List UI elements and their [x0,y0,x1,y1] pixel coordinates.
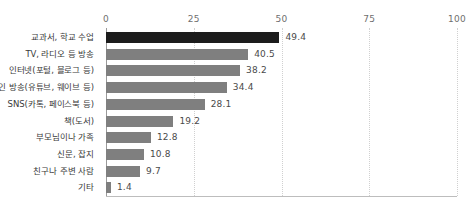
bar-value-label: 40.5 [254,46,275,63]
bar[interactable] [106,49,248,60]
bar[interactable] [106,166,140,177]
bar-row: 교과서, 학교 수업49.4 [0,29,473,46]
bar[interactable] [106,65,240,76]
bar-row: 친구나 주변 사람9.7 [0,163,473,180]
category-label: 인터넷(포털, 블로그 등) [9,62,94,79]
category-label: 온라인 방송(유튜브, 웨이브 등) [0,79,94,96]
bar[interactable] [106,99,205,110]
x-tick-label: 100 [448,14,466,25]
bar-value-label: 12.8 [157,129,178,146]
bar-value-label: 38.2 [246,62,267,79]
horizontal-bar-chart: 0255075100 교과서, 학교 수업49.4TV, 라디오 등 방송40.… [0,0,473,205]
bar-value-label: 28.1 [211,96,232,113]
bar-row: 부모님이나 가족12.8 [0,129,473,146]
bar[interactable] [106,116,173,127]
bar[interactable] [106,182,111,193]
category-label: 교과서, 학교 수업 [31,29,94,46]
bar-value-label: 34.4 [233,79,254,96]
category-label: 신문, 잡지 [57,146,94,163]
category-label: 부모님이나 가족 [36,129,94,146]
bar-row: 온라인 방송(유튜브, 웨이브 등)34.4 [0,79,473,96]
bar-value-label: 1.4 [117,179,132,196]
x-tick-label: 50 [276,14,288,25]
bar-row: SNS(카톡, 페이스북 등)28.1 [0,96,473,113]
bar[interactable] [106,32,279,43]
category-label: 친구나 주변 사람 [33,163,94,180]
bar[interactable] [106,149,144,160]
bar-value-label: 9.7 [146,163,161,180]
bar-row: TV, 라디오 등 방송40.5 [0,46,473,63]
category-label: 기타 [78,179,94,196]
category-label: SNS(카톡, 페이스북 등) [8,96,94,113]
x-tick-label: 25 [188,14,200,25]
bar-row: 인터넷(포털, 블로그 등)38.2 [0,62,473,79]
bar-row: 기타1.4 [0,179,473,196]
bar-value-label: 49.4 [285,29,306,46]
category-label: 책(도서) [64,113,94,130]
bar-value-label: 19.2 [179,113,200,130]
bar[interactable] [106,82,227,93]
category-label: TV, 라디오 등 방송 [25,46,94,63]
bar-row: 신문, 잡지10.8 [0,146,473,163]
x-tick-label: 0 [103,14,109,25]
x-tick-label: 75 [363,14,375,25]
bar-value-label: 10.8 [150,146,171,163]
bar[interactable] [106,132,151,143]
bar-row: 책(도서)19.2 [0,113,473,130]
